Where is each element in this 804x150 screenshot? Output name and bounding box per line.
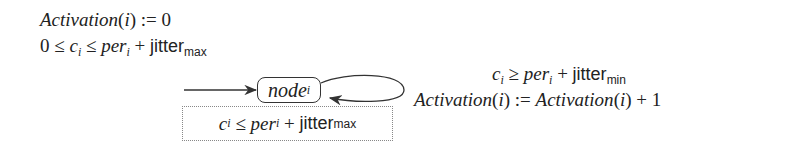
plus-op: +: [135, 35, 146, 56]
period: per: [101, 35, 126, 56]
jitter-sub: max: [184, 45, 207, 59]
period: per: [524, 63, 549, 84]
activation-arg: i: [498, 89, 503, 110]
leq-op: ≤: [235, 113, 245, 135]
period-sub: i: [549, 73, 552, 87]
jitter-sub: min: [607, 73, 626, 87]
init-value: 0: [162, 9, 172, 30]
node-label: node: [268, 79, 307, 102]
node-sub: i: [307, 83, 310, 98]
self-loop-edge-arrow: [321, 75, 404, 101]
plus-op: +: [284, 113, 295, 135]
leq-op: ≤: [54, 35, 64, 56]
activation-fn: Activation: [40, 9, 118, 30]
activation-fn: Activation: [414, 89, 492, 110]
clock-sub: i: [78, 45, 81, 59]
period: per: [251, 113, 276, 135]
period-sub: i: [276, 116, 279, 131]
clock-sub: i: [227, 116, 230, 131]
period-sub: i: [126, 45, 129, 59]
activation-arg: i: [124, 9, 129, 30]
jitter-sub: max: [333, 117, 356, 131]
leq-op: ≤: [86, 35, 96, 56]
loop-guard: ci ≥ peri + jittermin: [492, 64, 626, 86]
clock-sub: i: [500, 73, 503, 87]
invariant-box: ci ≤ peri + jittermax: [182, 106, 393, 141]
init-activation: Activation(i) := 0: [40, 10, 171, 29]
jitter: jitter: [299, 113, 333, 134]
assign-op: :=: [515, 89, 531, 110]
clock-var: c: [219, 113, 227, 135]
init-clock-range: 0 ≤ ci ≤ peri + jittermax: [40, 36, 207, 58]
lower-bound: 0: [40, 35, 50, 56]
plus-op: +: [557, 63, 568, 84]
plus-op: +: [636, 89, 647, 110]
jitter: jitter: [150, 36, 184, 56]
increment-value: 1: [652, 89, 662, 110]
activation-arg: i: [620, 89, 625, 110]
jitter: jitter: [573, 64, 607, 84]
loop-update: Activation(i) := Activation(i) + 1: [414, 90, 661, 109]
geq-op: ≥: [509, 63, 519, 84]
state-node: nodei: [257, 77, 321, 103]
assign-op: :=: [141, 9, 157, 30]
activation-fn: Activation: [536, 89, 614, 110]
clock-var: c: [69, 35, 77, 56]
